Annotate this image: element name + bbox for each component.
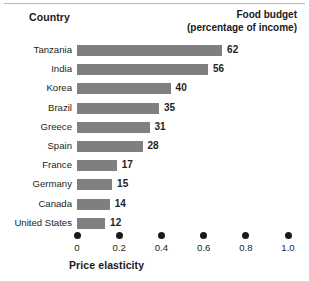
x-axis-tick-label: 1.0 [268,242,308,253]
x-axis: 00.20.40.60.81.0 [0,232,309,256]
bar-row: Germany15 [0,176,309,195]
bar-row: Greece31 [0,119,309,138]
bar [77,218,105,229]
x-axis-tick-dot [158,232,165,239]
bar-value-label: 28 [148,140,159,151]
x-axis-title: Price elasticity [69,259,144,271]
bar-category-label: Greece [0,121,72,132]
bar [77,122,150,133]
bar-value-label: 40 [176,82,187,93]
bar [77,64,208,75]
bar-category-label: Germany [0,178,72,189]
bar-row: Korea40 [0,80,309,99]
x-axis-tick-dot [200,232,207,239]
x-axis-tick-dot [74,232,81,239]
bar-category-label: Korea [0,82,72,93]
bar-category-label: United States [0,217,72,228]
food-budget-price-elasticity-chart: Country Food budget (percentage of incom… [0,0,309,281]
bar [77,141,143,152]
bar-category-label: France [0,159,72,170]
x-axis-tick-label: 0.4 [141,242,181,253]
bar-row: Spain28 [0,138,309,157]
x-axis-tick-label: 0.8 [226,242,266,253]
bar-value-label: 12 [110,217,121,228]
x-axis-tick-label: 0 [57,242,97,253]
bar-value-label: 31 [155,121,166,132]
food-budget-header-line1: Food budget [236,9,297,20]
bar-value-label: 56 [213,63,224,74]
bar [77,199,110,210]
bar-value-label: 17 [122,159,133,170]
bar [77,83,171,94]
bar-value-label: 62 [227,44,238,55]
x-axis-tick-dot [242,232,249,239]
country-column-header: Country [29,11,70,23]
bar [77,45,222,56]
bar [77,179,112,190]
x-axis-tick-label: 0.6 [184,242,224,253]
bar-row: Canada14 [0,196,309,215]
bar-row: Brazil35 [0,100,309,119]
bar [77,160,117,171]
bar-plot-area: Tanzania62India56Korea40Brazil35Greece31… [0,42,309,234]
bar-value-label: 14 [115,198,126,209]
bar [77,103,159,114]
bar-category-label: Tanzania [0,44,72,55]
x-axis-tick-dot [116,232,123,239]
bar-row: Tanzania62 [0,42,309,61]
food-budget-column-header: Food budget (percentage of income) [187,9,297,34]
x-axis-tick-dot [285,232,292,239]
bar-row: France17 [0,157,309,176]
bar-row: India56 [0,61,309,80]
bar-value-label: 35 [164,102,175,113]
bar-value-label: 15 [117,178,128,189]
bar-category-label: Canada [0,198,72,209]
bar-category-label: Brazil [0,102,72,113]
x-axis-tick-label: 0.2 [99,242,139,253]
bar-category-label: Spain [0,140,72,151]
bar-category-label: India [0,63,72,74]
food-budget-header-line2: (percentage of income) [187,22,297,35]
top-divider [4,3,305,4]
